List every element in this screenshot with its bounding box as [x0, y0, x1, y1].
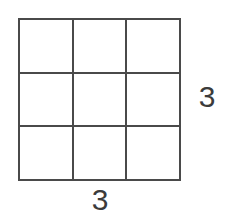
grid-cell[interactable] [74, 20, 128, 74]
grid-cell[interactable] [74, 127, 128, 181]
square-grid [18, 18, 181, 181]
grid-cell[interactable] [127, 127, 181, 181]
grid-cell[interactable] [20, 74, 74, 128]
grid-cell[interactable] [20, 20, 74, 74]
bottom-dimension-label: 3 [81, 185, 119, 215]
grid-cell[interactable] [127, 74, 181, 128]
right-dimension-label: 3 [188, 82, 226, 112]
grid-cell[interactable] [127, 20, 181, 74]
grid-cell[interactable] [74, 74, 128, 128]
grid-cell[interactable] [20, 127, 74, 181]
grid-figure: 3 3 [0, 0, 227, 220]
